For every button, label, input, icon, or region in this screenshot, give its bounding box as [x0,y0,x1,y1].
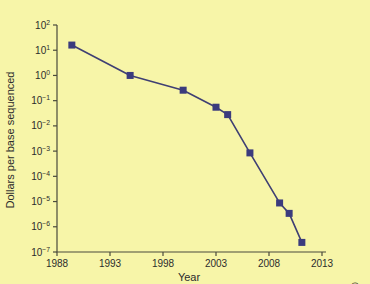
chart-figure: 10210110010−110−210−310−410−510−610−7 19… [0,0,370,284]
x-tick-label: 1998 [152,258,175,269]
x-tick-label: 2003 [205,258,228,269]
y-tick-label: 10−4 [31,170,50,182]
data-series [68,42,305,246]
y-tick-label: 10−7 [31,246,50,258]
y-tick-label: 10−5 [31,195,50,207]
x-tick-label: 1993 [99,258,122,269]
x-tick-label: 2013 [311,258,334,269]
y-tick-label: 10−2 [31,119,50,131]
x-tick-label: 1988 [46,258,69,269]
data-point-marker [224,111,231,118]
chart-ticks [53,25,322,256]
y-tick-label: 10−6 [31,220,50,232]
y-axis-title: Dollars per base sequenced [4,72,16,209]
data-point-marker [180,87,187,94]
x-axis-title: Year [178,271,201,283]
data-point-marker [298,239,305,246]
data-point-marker [68,42,75,49]
data-point-marker [213,104,220,111]
y-tick-label: 100 [35,69,50,81]
x-tick-label: 2008 [258,258,281,269]
y-tick-label: 101 [35,44,50,56]
data-point-marker [246,149,253,156]
data-point-marker [286,210,293,217]
y-tick-labels: 10210110010−110−210−310−410−510−610−7 [31,19,50,258]
x-tick-labels: 198819931998200320082013 [46,258,334,269]
y-tick-label: 10−3 [31,145,50,157]
y-tick-label: 10−1 [31,94,50,106]
data-point-marker [127,72,134,79]
log-line-chart: 10210110010−110−210−310−410−510−610−7 19… [0,0,370,284]
series-line [72,45,302,242]
data-point-marker [276,199,283,206]
y-tick-label: 102 [35,19,50,31]
